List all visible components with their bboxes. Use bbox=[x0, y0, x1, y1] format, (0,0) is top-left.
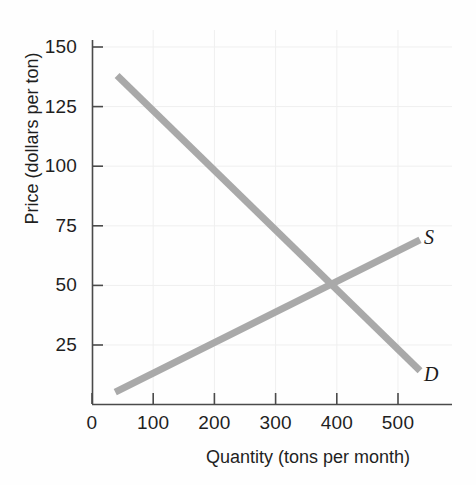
supply-demand-chart: 150 125 100 75 50 25 0 100 200 300 400 5… bbox=[0, 0, 476, 485]
x-tick-marks bbox=[92, 393, 398, 404]
demand-curve-label: D bbox=[424, 363, 438, 386]
x-tick-label-0: 0 bbox=[87, 412, 98, 434]
x-tick-label-100: 100 bbox=[137, 412, 169, 434]
x-tick-label-300: 300 bbox=[259, 412, 291, 434]
demand-curve bbox=[117, 76, 420, 371]
supply-curve-label: S bbox=[424, 226, 434, 249]
grid-vertical bbox=[153, 30, 398, 404]
x-axis-title: Quantity (tons per month) bbox=[206, 447, 410, 468]
supply-curve bbox=[115, 240, 420, 392]
y-tick-label-50: 50 bbox=[32, 274, 77, 296]
x-tick-label-200: 200 bbox=[198, 412, 230, 434]
y-axis-title: Price (dollars per ton) bbox=[22, 29, 43, 249]
x-tick-label-500: 500 bbox=[382, 412, 414, 434]
y-tick-marks bbox=[92, 47, 103, 345]
x-tick-label-400: 400 bbox=[321, 412, 353, 434]
y-tick-label-25: 25 bbox=[32, 334, 77, 356]
